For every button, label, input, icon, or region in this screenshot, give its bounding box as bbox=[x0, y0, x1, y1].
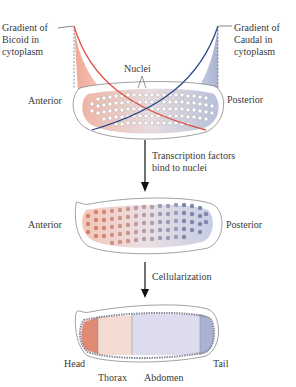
bicoid-leader bbox=[58, 26, 73, 28]
bicoid-gradient-label: Gradient of Bicoid in cytoplasm bbox=[2, 22, 48, 58]
caudal-label-line1: Gradient of bbox=[234, 22, 280, 34]
posterior-label-stage1: Posterior bbox=[227, 94, 263, 106]
region-abdomen bbox=[132, 314, 200, 355]
region-label-tail: Tail bbox=[213, 358, 228, 370]
posterior-label-stage2: Posterior bbox=[226, 219, 262, 231]
step2-label: Cellularization bbox=[152, 271, 211, 283]
region-thorax bbox=[98, 316, 132, 355]
arrow-down-2 bbox=[141, 262, 149, 298]
caudal-label-line3: cytoplasm bbox=[234, 46, 280, 58]
anterior-label-stage1: Anterior bbox=[28, 95, 62, 107]
step1-label-line1: Transcription factors bbox=[152, 150, 235, 162]
bicoid-label-line2: Bicoid in bbox=[2, 34, 48, 46]
embryo-stage2 bbox=[75, 198, 222, 254]
embryo-stage1 bbox=[73, 82, 224, 140]
caudal-label-line2: Caudal in bbox=[234, 34, 280, 46]
region-label-thorax: Thorax bbox=[98, 372, 127, 384]
step1-label: Transcription factors bind to nuclei bbox=[152, 150, 235, 174]
step1-label-line2: bind to nuclei bbox=[152, 162, 235, 174]
bicoid-label-line1: Gradient of bbox=[2, 22, 48, 34]
bicoid-label-line3: cytoplasm bbox=[2, 46, 48, 58]
caudal-gradient-label: Gradient of Caudal in cytoplasm bbox=[234, 22, 280, 58]
embryo-stage3 bbox=[75, 305, 218, 362]
nuclei-label: Nuclei bbox=[124, 63, 151, 75]
region-label-head: Head bbox=[64, 358, 85, 370]
region-label-abdomen: Abdomen bbox=[144, 372, 183, 384]
anterior-label-stage2: Anterior bbox=[28, 219, 62, 231]
diagram-canvas bbox=[0, 0, 296, 387]
arrow-down-1 bbox=[141, 140, 149, 192]
